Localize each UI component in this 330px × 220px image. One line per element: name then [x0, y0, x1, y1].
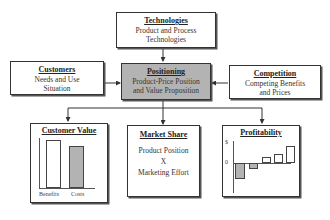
competition-line-2: and Prices	[230, 88, 320, 97]
benefits-label: Benefits	[39, 191, 59, 197]
costs-label: Costs	[71, 191, 84, 197]
technologies-line-1: Product and Process	[117, 26, 215, 35]
profit-bar-1	[235, 163, 245, 179]
cv-x-axis	[39, 188, 95, 189]
customer-value-title: Customer Value	[31, 126, 107, 136]
market-share-operator: X	[128, 157, 199, 166]
market-share-line-2: Marketing Effort	[128, 168, 199, 177]
profit-bar-2	[249, 163, 258, 169]
competition-box: Competition Competing Benefits and Price…	[229, 65, 321, 99]
competition-title: Competition	[230, 69, 320, 79]
technologies-box: Technologies Product and Process Technol…	[116, 12, 216, 48]
profit-y-axis	[233, 141, 234, 193]
market-share-box: Market Share Product Position X Marketin…	[127, 125, 200, 197]
customers-line-1: Needs and Use	[11, 75, 103, 84]
y-axis-zero-label: 0	[225, 159, 228, 165]
cv-y-axis	[39, 138, 40, 188]
positioning-title: Positioning	[122, 67, 210, 77]
positioning-line-1: Product-Price Position	[122, 77, 210, 86]
costs-bar	[69, 146, 84, 188]
profit-bar-5	[286, 146, 295, 163]
customers-title: Customers	[11, 65, 103, 75]
profit-bar-4	[274, 154, 283, 163]
profitability-box: Profitability $ 0	[222, 125, 300, 197]
profit-bar-3	[262, 157, 271, 163]
customer-value-box: Customer Value Benefits Costs	[30, 123, 108, 203]
customers-line-2: Situation	[11, 84, 103, 93]
customers-box: Customers Needs and Use Situation	[10, 61, 104, 95]
y-axis-dollar-label: $	[225, 139, 228, 145]
positioning-box: Positioning Product-Price Position and V…	[121, 63, 211, 100]
competition-line-1: Competing Benefits	[230, 79, 320, 88]
positioning-line-2: and Value Proposition	[122, 86, 210, 95]
benefits-bar	[46, 140, 61, 188]
market-share-title: Market Share	[128, 130, 199, 140]
technologies-title: Technologies	[117, 16, 215, 26]
profitability-title: Profitability	[223, 128, 299, 138]
technologies-line-2: Technologies	[117, 35, 215, 44]
market-share-line-1: Product Position	[128, 146, 199, 155]
